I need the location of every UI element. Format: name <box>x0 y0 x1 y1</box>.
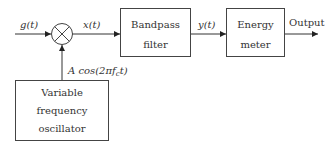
oscillator-label-line1: Variable <box>40 87 83 98</box>
energy-label-line1: Energy <box>237 19 274 30</box>
bandpass-label-line2: filter <box>143 39 168 50</box>
bandpass-label-line1: Bandpass <box>131 19 180 30</box>
bandpass-filter-block: Bandpass filter <box>121 9 191 57</box>
energy-label-line2: meter <box>240 39 270 50</box>
energy-meter-block: Energy meter <box>227 9 285 57</box>
oscillator-label-line2: frequency <box>37 105 88 116</box>
output-label: Output <box>289 17 325 28</box>
oscillator-block: Variable frequency oscillator <box>16 81 109 141</box>
input-label: g(t) <box>20 19 38 30</box>
filter-output-label: y(t) <box>197 19 216 30</box>
oscillator-label-line3: oscillator <box>38 123 85 134</box>
mixer-output-label: x(t) <box>83 19 101 30</box>
block-diagram: g(t) x(t) Bandpass filter y(t) Energy me… <box>0 0 336 149</box>
oscillator-signal-label: A cos(2πfct) <box>67 65 128 78</box>
multiplier-icon <box>52 24 73 45</box>
